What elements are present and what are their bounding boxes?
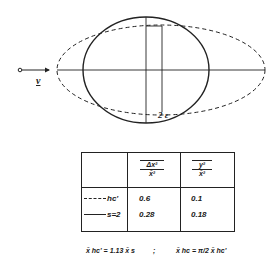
origin-point xyxy=(18,68,22,72)
legend-hc-prime: hc' xyxy=(84,194,118,203)
table-divider xyxy=(127,153,128,231)
formula-separator: ; xyxy=(153,247,155,254)
formula-right: x̄ hc = π/2 x̄ hc' xyxy=(176,247,226,254)
row2-y-value: 0.18 xyxy=(191,210,207,219)
solid-line-icon xyxy=(84,214,106,215)
header-y-ratio: y² x̄² xyxy=(192,160,212,178)
radius-label: 2 ε xyxy=(157,110,169,120)
header-delta-x-ratio: Δx² x̄² xyxy=(140,160,164,178)
row1-y-value: 0.1 xyxy=(191,194,202,203)
formula-left: x̄ hc' = 1.13 x̄ s xyxy=(86,247,135,254)
row1-delta-value: 0.6 xyxy=(139,194,150,203)
table-divider xyxy=(180,153,181,231)
parameter-table: Δx² x̄² y² x̄² hc' 0.6 0.1 s=2 0.28 0.18 xyxy=(81,152,235,232)
dashed-line-icon xyxy=(84,198,106,199)
row2-delta-value: 0.28 xyxy=(139,210,155,219)
legend-s2: s=2 xyxy=(84,210,121,219)
table-header-divider xyxy=(82,187,234,188)
shape-diagram: v 2 ε xyxy=(0,0,278,140)
arrowhead-icon xyxy=(45,68,50,73)
velocity-label: v xyxy=(36,75,41,86)
